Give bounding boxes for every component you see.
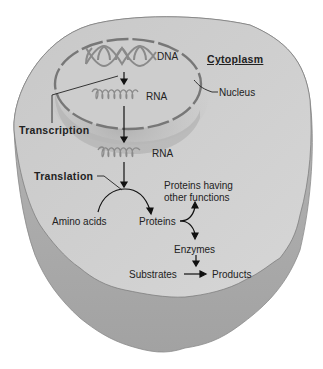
label-nucleus: Nucleus (219, 87, 255, 98)
label-products: Products (212, 269, 251, 280)
label-rna-cytoplasmic: RNA (152, 148, 173, 159)
label-dna: DNA (157, 51, 178, 62)
label-transcription: Transcription (19, 125, 89, 136)
label-enzymes: Enzymes (174, 244, 215, 255)
label-proteins-other-2: other functions (164, 192, 230, 203)
label-rna-nuclear: RNA (146, 91, 167, 102)
label-substrates: Substrates (129, 269, 177, 280)
label-amino-acids: Amino acids (52, 216, 106, 227)
label-translation: Translation (34, 171, 93, 182)
label-proteins: Proteins (139, 216, 176, 227)
label-cytoplasm: Cytoplasm (207, 54, 263, 65)
label-proteins-other-1: Proteins having (164, 180, 233, 191)
